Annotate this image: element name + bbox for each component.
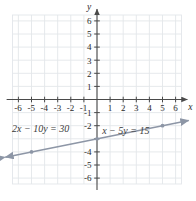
y-tick-label: 4 [87, 42, 92, 52]
y-tick-label: -2 [84, 121, 92, 131]
y-tick-label: 5 [87, 29, 92, 39]
x-tick-label: 2 [121, 103, 126, 113]
equation-label-left: 2x − 10y = 30 [12, 123, 69, 134]
graph-figure: -6-5-4-3-2-1123456654321-1-2-4-5-6xy2x −… [0, 0, 196, 201]
x-tick-label: 6 [173, 103, 178, 113]
x-tick-label: 1 [108, 103, 113, 113]
y-tick-label: -6 [84, 173, 92, 183]
equation-label-right: x − 5y = 15 [101, 125, 149, 136]
x-tick-label: -5 [27, 103, 35, 113]
y-tick-label: 6 [87, 16, 92, 26]
x-tick-label: -4 [41, 103, 49, 113]
x-tick-label: 5 [160, 103, 165, 113]
coordinate-plane-svg: -6-5-4-3-2-1123456654321-1-2-4-5-6xy2x −… [0, 0, 196, 201]
data-point [95, 137, 99, 141]
x-tick-label: -2 [67, 103, 75, 113]
x-tick-label: -3 [54, 103, 62, 113]
y-tick-label: 1 [87, 82, 92, 92]
data-point [30, 150, 34, 154]
y-axis-label: y [86, 2, 92, 12]
y-tick-label: 3 [87, 56, 92, 66]
data-point [161, 124, 165, 128]
y-tick-label: -1 [84, 108, 92, 118]
y-tick-label: 2 [87, 69, 92, 79]
y-tick-label: -5 [84, 160, 92, 170]
x-axis-label: x [187, 102, 193, 112]
x-tick-label: -6 [14, 103, 22, 113]
x-tick-label: 4 [147, 103, 152, 113]
y-tick-label: -4 [84, 147, 92, 157]
x-tick-label: 3 [134, 103, 139, 113]
